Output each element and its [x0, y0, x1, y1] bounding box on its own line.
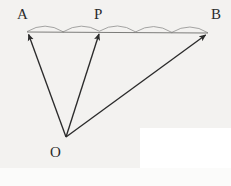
point-label-b: B — [211, 7, 221, 22]
figure-canvas — [0, 0, 231, 186]
division-point-1 — [62, 31, 64, 33]
point-label-a: A — [17, 7, 28, 22]
division-point-3 — [135, 31, 137, 33]
division-point-4 — [171, 32, 173, 34]
point-label-p: P — [94, 7, 102, 22]
geometry-figure: A P B O — [0, 0, 231, 186]
point-label-o: O — [50, 145, 61, 160]
figure-background-lower — [0, 168, 231, 186]
